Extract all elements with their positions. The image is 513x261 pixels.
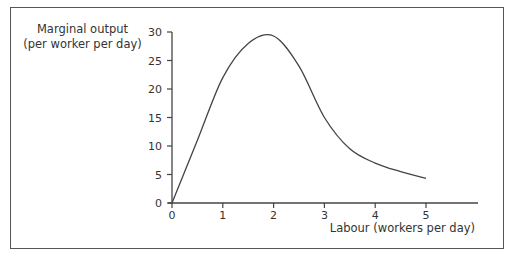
- x-tick-label: 0: [169, 209, 176, 222]
- plot-area: 051015202530012345: [0, 0, 513, 261]
- axes: 051015202530012345: [148, 26, 478, 222]
- y-tick-label: 30: [148, 26, 162, 39]
- y-tick-label: 25: [148, 55, 162, 68]
- marginal-output-curve: [172, 35, 426, 203]
- x-tick-label: 1: [219, 209, 226, 222]
- y-tick-label: 5: [155, 169, 162, 182]
- x-tick-label: 2: [270, 209, 277, 222]
- x-tick-label: 3: [321, 209, 328, 222]
- y-tick-label: 10: [148, 140, 162, 153]
- x-tick-label: 4: [372, 209, 379, 222]
- y-tick-label: 15: [148, 112, 162, 125]
- y-tick-label: 0: [155, 197, 162, 210]
- y-tick-label: 20: [148, 83, 162, 96]
- x-tick-label: 5: [423, 209, 430, 222]
